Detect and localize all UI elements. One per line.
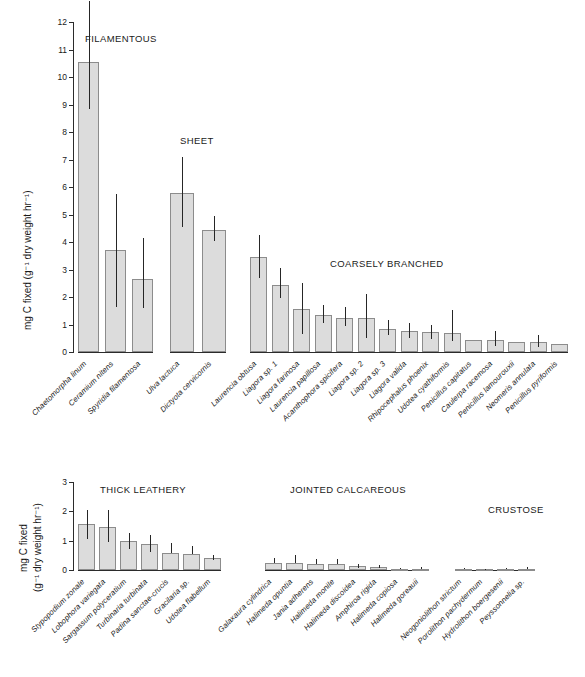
error-bar: [87, 510, 88, 539]
error-bar: [280, 268, 281, 298]
bar: [286, 563, 303, 570]
error-bar: [337, 559, 338, 564]
top-panel: mg C fixed (g⁻¹ dry weight hr⁻¹) 0123456…: [0, 0, 585, 452]
error-bar: [259, 235, 260, 278]
bar: [455, 569, 472, 571]
error-bar: [150, 535, 151, 551]
bar: [328, 564, 345, 570]
bar: [465, 340, 482, 352]
bar: [518, 569, 535, 571]
error-bar: [366, 294, 367, 337]
bottom-panel: mg C fixed (g⁻¹ dry weight hr⁻¹) 0123 TH…: [0, 452, 585, 677]
error-bar: [192, 546, 193, 554]
error-bar: [464, 568, 465, 569]
error-bar: [108, 510, 109, 542]
x-axis-baseline: [250, 352, 568, 353]
bar: [265, 563, 282, 570]
x-axis-baseline: [170, 352, 226, 353]
error-bar: [431, 325, 432, 339]
error-bar: [214, 216, 215, 241]
error-bar: [129, 533, 130, 549]
error-bar: [213, 555, 214, 560]
x-axis-baseline: [78, 570, 221, 571]
error-bar: [485, 569, 486, 570]
bar: [391, 569, 408, 571]
bar: [551, 344, 568, 352]
group-title-crustose: CRUSTOSE: [488, 504, 544, 515]
group-title-thick-leathery: THICK LEATHERY: [100, 484, 186, 495]
error-bar: [316, 559, 317, 564]
error-bar: [506, 568, 507, 569]
bar: [412, 569, 429, 571]
group-title-filamentous: FILAMENTOUS: [85, 33, 157, 44]
error-bar: [421, 567, 422, 568]
error-bar: [358, 564, 359, 568]
category-label: Spyridia filamentosa: [85, 359, 142, 416]
bottom-plot-area: THICK LEATHERYStypopodium zonaleLobophor…: [0, 452, 585, 677]
group-title-coarsely-branched: COARSELY BRANCHED: [330, 258, 444, 269]
error-bar: [400, 568, 401, 569]
error-bar: [409, 323, 410, 338]
error-bar: [89, 1, 90, 108]
bar: [508, 342, 525, 352]
error-bar: [345, 307, 346, 325]
error-bar: [527, 567, 528, 568]
error-bar: [116, 194, 117, 307]
bar: [183, 554, 200, 570]
error-bar: [538, 335, 539, 347]
error-bar: [274, 558, 275, 564]
bar: [497, 569, 514, 571]
error-bar: [295, 555, 296, 563]
error-bar: [182, 157, 183, 227]
group-title-jointed-calcareous: JOINTED CALCAREOUS: [290, 484, 406, 495]
error-bar: [171, 543, 172, 553]
error-bar: [495, 331, 496, 346]
error-bar: [302, 283, 303, 334]
group-title-sheet: SHEET: [180, 135, 214, 146]
error-bar: [379, 565, 380, 568]
error-bar: [452, 310, 453, 341]
bar: [202, 230, 226, 352]
error-bar: [143, 238, 144, 308]
x-axis-baseline: [78, 352, 153, 353]
bar: [307, 564, 324, 570]
bar: [162, 553, 179, 570]
top-plot-area: FILAMENTOUSChaetomorpha linumCeramium ni…: [0, 0, 585, 452]
error-bar: [323, 305, 324, 323]
bar: [476, 569, 493, 571]
error-bar: [388, 320, 389, 336]
